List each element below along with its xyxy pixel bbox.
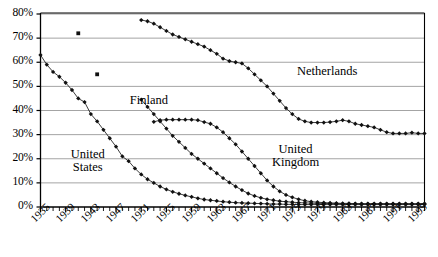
y-axis-tick-label: 10% (0, 175, 33, 187)
data-point (284, 200, 288, 204)
data-point (233, 60, 237, 64)
data-point (139, 18, 143, 22)
data-point (341, 118, 345, 122)
data-point (372, 125, 376, 129)
data-point (227, 200, 231, 204)
chart-container: 0%10%20%30%40%50%60%70%80%19351939194319… (0, 0, 438, 257)
y-axis-tick-label: 80% (0, 6, 33, 18)
data-point (38, 53, 42, 57)
data-point (177, 192, 181, 196)
data-point (208, 122, 212, 126)
data-point (233, 184, 237, 188)
data-point (303, 199, 307, 203)
data-point (196, 42, 200, 46)
data-point (359, 123, 363, 127)
data-point (196, 196, 200, 200)
data-point (158, 184, 162, 188)
series-label-united-states: UnitedStates (71, 148, 105, 175)
data-point (347, 119, 351, 123)
data-point (208, 198, 212, 202)
data-point (189, 40, 193, 44)
y-axis-tick-label: 30% (0, 127, 33, 139)
data-point (196, 118, 200, 122)
series-label-finland: Finland (130, 94, 168, 108)
data-point (177, 118, 181, 122)
data-point (353, 122, 357, 126)
data-point (164, 187, 168, 191)
data-point (378, 128, 382, 132)
y-axis-tick-label: 20% (0, 151, 33, 163)
data-point (246, 191, 250, 195)
data-point (164, 29, 168, 33)
series-label-netherlands: Netherlands (297, 65, 357, 79)
data-point (145, 19, 149, 23)
data-point (385, 130, 389, 134)
series-line (141, 20, 424, 133)
outlier-point (76, 31, 80, 35)
y-axis-tick-label: 70% (0, 30, 33, 42)
data-point (366, 124, 370, 128)
data-point (152, 181, 156, 185)
data-point (171, 190, 175, 194)
data-point (309, 120, 313, 124)
data-point (152, 22, 156, 26)
data-point (152, 120, 156, 124)
series-line (41, 55, 425, 205)
data-point (171, 118, 175, 122)
data-point (202, 44, 206, 48)
data-point (171, 32, 175, 36)
data-point (189, 195, 193, 199)
data-point (284, 193, 288, 197)
data-point (252, 194, 256, 198)
data-point (296, 197, 300, 201)
outlier-point (95, 72, 99, 76)
data-point (322, 120, 326, 124)
data-point (202, 120, 206, 124)
y-axis-tick-label: 50% (0, 78, 33, 90)
data-point (290, 195, 294, 199)
data-point (183, 193, 187, 197)
y-axis-tick-label: 40% (0, 103, 33, 115)
series-label-united-kingdom: UnitedKingdom (272, 143, 319, 170)
data-point (202, 197, 206, 201)
data-point (233, 201, 237, 205)
data-point (164, 118, 168, 122)
series-netherlands (139, 18, 427, 136)
data-point (158, 25, 162, 29)
y-axis-tick-label: 0% (0, 199, 33, 211)
data-point (183, 118, 187, 122)
data-point (189, 118, 193, 122)
y-axis-tick-label: 60% (0, 54, 33, 66)
data-point (303, 119, 307, 123)
data-point (240, 188, 244, 192)
data-point (259, 201, 263, 205)
data-point (328, 120, 332, 124)
data-point (259, 196, 263, 200)
data-point (334, 119, 338, 123)
data-point (315, 120, 319, 124)
data-point (208, 48, 212, 52)
data-point (252, 201, 256, 205)
data-point (278, 199, 282, 203)
data-point (82, 100, 86, 104)
data-point (271, 198, 275, 202)
